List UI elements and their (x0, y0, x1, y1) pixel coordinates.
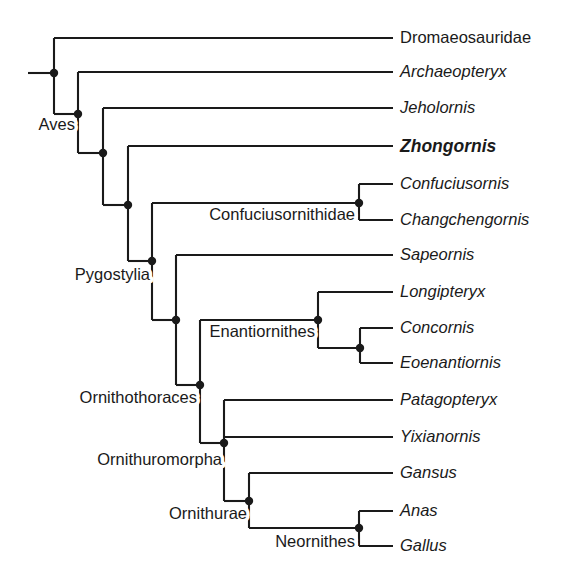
node-dot-node-sapeornis (172, 316, 180, 324)
node-dot-ornithothoraces (196, 381, 204, 389)
node-dot-confuciusornithidae (355, 199, 363, 207)
taxon-label-archaeopteryx: Archaeopteryx (399, 62, 507, 80)
taxon-label-changchengornis: Changchengornis (400, 210, 529, 228)
node-dot-aves (74, 110, 82, 118)
clade-label-ornithuromorpha: Ornithuromorpha (97, 450, 223, 468)
node-dot-enantiornithes (314, 316, 322, 324)
taxon-label-concornis: Concornis (400, 318, 474, 336)
phylogenetic-tree: AvesAvesPygostyliaPygostyliaOrnithothora… (0, 0, 566, 578)
clade-labels: AvesAvesPygostyliaPygostyliaOrnithothora… (39, 115, 355, 550)
node-dot-node-concornis (356, 344, 364, 352)
taxon-labels: DromaeosauridaeArchaeopteryxJeholornisZh… (399, 28, 531, 554)
node-dot-ornithurae (245, 497, 253, 505)
clade-label-ornithurae: Ornithurae (169, 504, 247, 522)
node-dot-pygostylia (148, 257, 156, 265)
node-dot-neornithes (355, 524, 363, 532)
taxon-label-gallus: Gallus (400, 536, 447, 554)
taxon-label-confuciusornis: Confuciusornis (400, 174, 509, 192)
clade-label-neornithes: Neornithes (275, 532, 355, 550)
taxon-label-jeholornis: Jeholornis (399, 98, 475, 116)
clade-label-ornithothoraces: Ornithothoraces (80, 388, 197, 406)
node-dot-root (50, 69, 58, 77)
taxon-label-patagopteryx: Patagopteryx (400, 390, 498, 408)
taxon-label-yixianornis: Yixianornis (400, 427, 480, 445)
node-dot-node-jeholornis (99, 149, 107, 157)
clade-label-confuciusornithidae: Confuciusornithidae (209, 205, 355, 223)
node-dot-node-zhongornis (124, 201, 132, 209)
taxon-label-zhongornis: Zhongornis (399, 136, 497, 156)
taxon-label-anas: Anas (399, 501, 438, 519)
cladogram-figure: AvesAvesPygostyliaPygostyliaOrnithothora… (0, 0, 566, 578)
taxon-label-longipteryx: Longipteryx (400, 282, 486, 300)
node-vertical-lines (54, 38, 360, 546)
taxon-label-gansus: Gansus (400, 463, 457, 481)
taxon-label-eoenantiornis: Eoenantiornis (400, 353, 501, 371)
node-dot-ornithuromorpha (220, 439, 228, 447)
taxon-label-dromaeosauridae: Dromaeosauridae (400, 28, 531, 46)
clade-label-aves: Aves (39, 115, 75, 133)
clade-label-enantiornithes: Enantiornithes (210, 322, 316, 340)
taxon-label-sapeornis: Sapeornis (400, 245, 474, 263)
clade-label-pygostylia: Pygostylia (75, 265, 151, 283)
